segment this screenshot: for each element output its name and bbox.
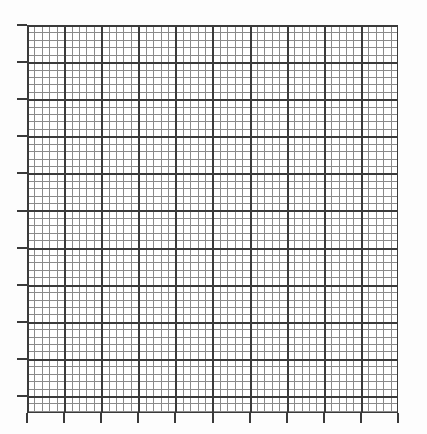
y-tick-8 bbox=[17, 321, 27, 323]
x-tick-1 bbox=[63, 413, 65, 423]
x-tick-4 bbox=[174, 413, 176, 423]
figure-canvas bbox=[0, 0, 427, 434]
x-tick-9 bbox=[360, 413, 362, 423]
y-tick-2 bbox=[17, 98, 27, 100]
plot-area[interactable] bbox=[27, 25, 398, 413]
x-tick-0 bbox=[26, 413, 28, 423]
y-tick-4 bbox=[17, 172, 27, 174]
x-tick-6 bbox=[249, 413, 251, 423]
major-gridlines bbox=[27, 25, 398, 413]
y-tick-3 bbox=[17, 135, 27, 137]
x-tick-2 bbox=[100, 413, 102, 423]
x-tick-8 bbox=[323, 413, 325, 423]
x-tick-10 bbox=[397, 413, 399, 423]
y-tick-1 bbox=[17, 61, 27, 63]
y-tick-9 bbox=[17, 358, 27, 360]
y-tick-0 bbox=[17, 24, 27, 26]
y-tick-10 bbox=[17, 395, 27, 397]
y-tick-5 bbox=[17, 210, 27, 212]
y-tick-7 bbox=[17, 284, 27, 286]
x-tick-3 bbox=[137, 413, 139, 423]
x-tick-7 bbox=[286, 413, 288, 423]
y-tick-6 bbox=[17, 247, 27, 249]
x-tick-5 bbox=[212, 413, 214, 423]
